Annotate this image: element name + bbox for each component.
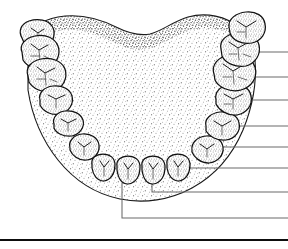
- tooth-right-central-incisor-crown: [142, 156, 165, 184]
- dental-arch-figure: [0, 0, 288, 249]
- tooth-right-lateral-incisor-crown: [167, 154, 190, 181]
- tooth-right-first-premolar[interactable]: [206, 112, 240, 140]
- tooth-left-central-incisor[interactable]: [117, 156, 140, 184]
- tooth-left-central-incisor-crown: [117, 156, 140, 184]
- tooth-left-lateral-incisor-crown: [92, 154, 115, 181]
- tooth-left-first-premolar-crown: [54, 111, 84, 136]
- tooth-left-second-premolar[interactable]: [40, 86, 73, 115]
- tooth-right-lateral-incisor[interactable]: [167, 154, 190, 181]
- figure-canvas: [0, 0, 288, 249]
- tooth-right-third-molar[interactable]: [229, 12, 265, 44]
- tooth-right-central-incisor[interactable]: [142, 156, 165, 184]
- tooth-left-first-premolar[interactable]: [54, 111, 84, 136]
- tooth-left-lateral-incisor[interactable]: [92, 154, 115, 181]
- tooth-right-third-molar-crown: [229, 12, 265, 44]
